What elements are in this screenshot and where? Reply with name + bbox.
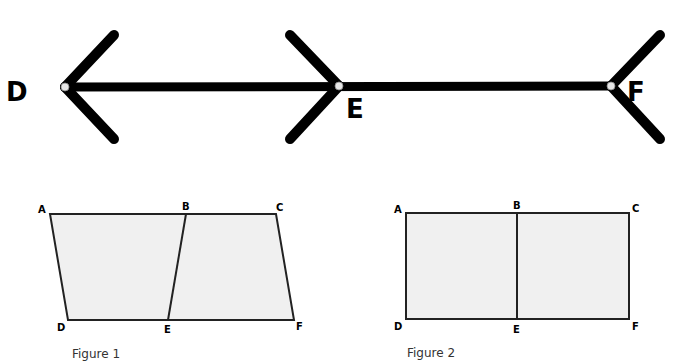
figure1-label-a: A [38,204,46,215]
diagram-canvas: DEF ABCDEFFigure 1 ABCDEFFigure 2 [0,0,689,362]
figure2-label-e: E [513,324,520,335]
figure2-label-c: C [632,203,639,214]
figure-2-rectangles: ABCDEFFigure 2 [394,200,639,360]
figure1-label-d: D [57,322,65,333]
figure1-caption: Figure 1 [72,347,120,361]
figure2-caption: Figure 2 [407,346,455,360]
figure2-label-b: B [513,200,521,211]
fin-line [65,35,114,87]
figure2-label-a: A [394,204,402,215]
label-e: E [346,94,364,124]
figure1-label-b: B [182,201,190,212]
fin-line [290,86,339,139]
fin-line [290,35,339,86]
figure1-label-e: E [164,324,171,335]
figure1-label-f: F [296,321,303,332]
point-e [335,82,343,90]
figure1-outline [50,214,294,320]
point-d [61,83,69,91]
figure-1-parallelograms: ABCDEFFigure 1 [38,201,303,361]
point-f [607,82,615,90]
figure2-label-d: D [394,321,402,332]
figure1-label-c: C [276,202,283,213]
muller-lyer-illusion: DEF [6,35,660,139]
figure2-label-f: F [632,321,639,332]
fin-line [65,87,114,139]
label-f: F [627,77,645,107]
label-d: D [6,77,28,107]
